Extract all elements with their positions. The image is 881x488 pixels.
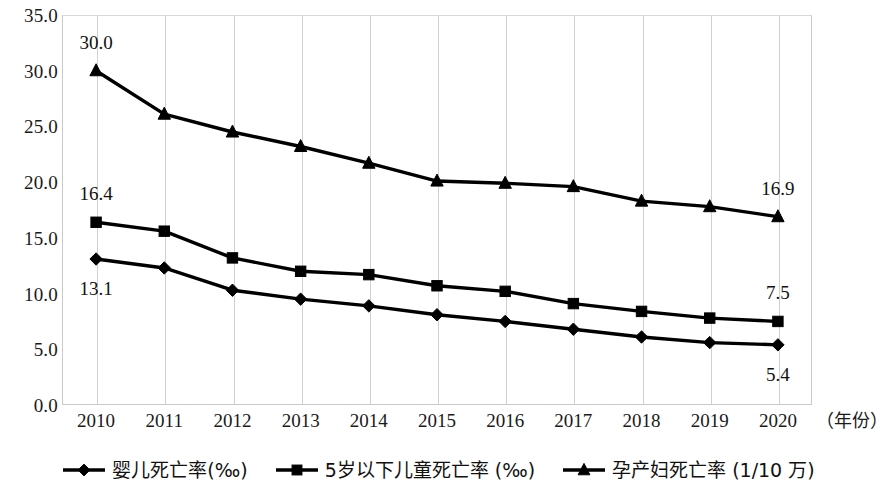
data-point-square bbox=[364, 269, 374, 279]
data-point-diamond bbox=[499, 315, 511, 327]
x-axis-tick-label: 2020 bbox=[759, 410, 797, 432]
y-axis-tick-label: 30.0 bbox=[2, 62, 58, 81]
chart-legend: 婴儿死亡率(‰)5岁以下儿童死亡率 (‰)孕产妇死亡率 (1/10 万) bbox=[0, 452, 876, 488]
data-point-square bbox=[773, 316, 783, 326]
y-axis-tick-label: 10.0 bbox=[2, 285, 58, 304]
series-layer bbox=[62, 15, 812, 405]
data-point-square bbox=[500, 286, 510, 296]
data-point-label: 16.4 bbox=[79, 184, 112, 203]
data-point-diamond bbox=[772, 339, 784, 351]
x-axis-tick-label: 2010 bbox=[77, 410, 115, 432]
data-point-square bbox=[705, 313, 715, 323]
legend-item-2[interactable]: 孕产妇死亡率 (1/10 万) bbox=[561, 460, 815, 480]
legend-marker-square-icon bbox=[274, 460, 320, 480]
legend-item-0[interactable]: 婴儿死亡率(‰) bbox=[61, 460, 247, 480]
y-axis-tick-label: 35.0 bbox=[2, 6, 58, 25]
x-axis-tick-label: 2011 bbox=[146, 410, 183, 432]
data-point-diamond bbox=[158, 262, 170, 274]
legend-item-1[interactable]: 5岁以下儿童死亡率 (‰) bbox=[274, 460, 535, 480]
data-point-square bbox=[636, 306, 646, 316]
series-line bbox=[96, 259, 778, 345]
data-point-square bbox=[91, 217, 101, 227]
x-axis-tick-label: 2018 bbox=[623, 410, 661, 432]
x-axis-tick-label: 2014 bbox=[350, 410, 388, 432]
y-axis: 35.030.025.020.015.010.05.00.0 bbox=[0, 0, 58, 420]
data-point-diamond bbox=[226, 284, 238, 296]
data-point-diamond bbox=[363, 300, 375, 312]
data-point-square bbox=[159, 226, 169, 236]
legend-marker-diamond-icon bbox=[61, 460, 107, 480]
legend-item-label: 婴儿死亡率(‰) bbox=[112, 461, 247, 480]
x-axis-title: （年份） bbox=[816, 410, 881, 432]
x-axis-tick-label: 2013 bbox=[282, 410, 320, 432]
data-point-label: 13.1 bbox=[79, 279, 112, 298]
series-line bbox=[96, 222, 778, 321]
data-point-square bbox=[295, 266, 305, 276]
y-axis-tick-label: 25.0 bbox=[2, 117, 58, 136]
data-point-diamond bbox=[704, 336, 716, 348]
y-axis-tick-label: 15.0 bbox=[2, 229, 58, 248]
x-axis-tick-label: 2015 bbox=[418, 410, 456, 432]
data-point-label: 30.0 bbox=[79, 33, 112, 52]
data-point-triangle bbox=[90, 64, 102, 76]
x-axis-tick-label: 2012 bbox=[213, 410, 251, 432]
data-point-label: 7.5 bbox=[766, 283, 790, 302]
data-point-square bbox=[568, 298, 578, 308]
data-point-diamond bbox=[635, 331, 647, 343]
data-point-diamond bbox=[90, 253, 102, 265]
data-point-label: 16.9 bbox=[761, 179, 794, 198]
data-point-square bbox=[227, 253, 237, 263]
data-point-label: 5.4 bbox=[766, 365, 790, 384]
legend-marker-triangle-icon bbox=[561, 460, 607, 480]
data-point-square bbox=[292, 465, 302, 475]
legend-item-label: 孕产妇死亡率 (1/10 万) bbox=[612, 461, 815, 480]
x-axis-tick-label: 2017 bbox=[554, 410, 592, 432]
data-point-diamond bbox=[431, 309, 443, 321]
x-axis-tick-label: 2019 bbox=[691, 410, 729, 432]
data-point-diamond bbox=[294, 293, 306, 305]
data-point-square bbox=[432, 281, 442, 291]
x-axis: （年份） 20102011201220132014201520162017201… bbox=[0, 410, 876, 444]
y-axis-tick-label: 20.0 bbox=[2, 173, 58, 192]
data-point-diamond bbox=[567, 323, 579, 335]
legend-item-label: 5岁以下儿童死亡率 (‰) bbox=[325, 461, 535, 480]
y-axis-tick-label: 5.0 bbox=[2, 340, 58, 359]
data-point-diamond bbox=[78, 464, 90, 476]
x-axis-tick-label: 2016 bbox=[486, 410, 524, 432]
series-line bbox=[96, 71, 778, 217]
